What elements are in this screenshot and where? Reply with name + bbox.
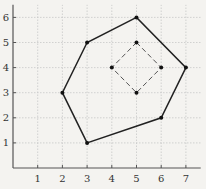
vertex-point [159, 66, 163, 70]
vertex-point [85, 141, 89, 145]
x-tick-label: 3 [84, 173, 90, 184]
vertex-point [184, 66, 188, 70]
y-tick-label: 3 [3, 87, 9, 98]
grid-lines [13, 5, 201, 168]
x-tick-label: 1 [35, 173, 41, 184]
x-tick-label: 7 [183, 173, 189, 184]
vertex-point [110, 66, 114, 70]
y-tick-label: 2 [3, 112, 9, 123]
polygons [60, 15, 187, 145]
vertex-point [135, 41, 139, 45]
vertex-point [159, 116, 163, 120]
y-tick-label: 6 [3, 12, 9, 23]
x-tick-label: 2 [59, 173, 65, 184]
y-tick-label: 5 [3, 37, 9, 48]
vertex-point [60, 91, 64, 95]
x-tick-label: 5 [133, 173, 139, 184]
y-tick-label: 1 [3, 137, 9, 148]
vertex-point [135, 91, 139, 95]
x-tick-label: 4 [109, 173, 115, 184]
y-tick-label: 4 [3, 62, 9, 73]
vertex-point [135, 15, 139, 19]
chart-plot: 1234567123456 [0, 0, 206, 189]
x-tick-label: 6 [158, 173, 164, 184]
vertex-point [85, 41, 89, 45]
axes [13, 5, 201, 168]
